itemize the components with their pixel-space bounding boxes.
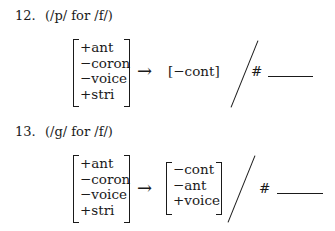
output-feature-matrix: −cont −ant +voice [173, 162, 220, 209]
rule-number: 12. [15, 8, 36, 23]
feature: −ant [173, 178, 220, 194]
rule-description: (/g/ for /f/) [45, 124, 113, 139]
feature: −voice [80, 71, 130, 87]
feature: +ant [80, 156, 130, 172]
rule-number: 13. [15, 124, 36, 139]
word-boundary-symbol: # [251, 64, 262, 80]
input-feature-matrix: +ant −coron −voice +stri [80, 40, 130, 102]
left-bracket [73, 39, 79, 107]
input-feature-matrix: +ant −coron −voice +stri [80, 156, 130, 218]
arrow-icon: → [137, 60, 152, 81]
feature: −cont [173, 162, 220, 178]
environment-slash [228, 155, 256, 222]
feature: −voice [80, 187, 130, 203]
output-feature: [−cont] [168, 64, 220, 80]
left-bracket [73, 155, 79, 223]
right-bracket [124, 39, 130, 107]
focus-blank [268, 76, 313, 77]
feature: +stri [80, 87, 130, 103]
left-bracket [166, 162, 172, 215]
word-boundary-symbol: # [259, 181, 270, 197]
focus-blank [277, 193, 323, 194]
feature: +ant [80, 40, 130, 56]
rule-description: (/p/ for /f/) [45, 8, 113, 23]
feature: −coron [80, 56, 130, 72]
right-bracket [124, 155, 130, 223]
feature: +stri [80, 203, 130, 219]
arrow-icon: → [137, 177, 152, 198]
right-bracket [216, 162, 222, 215]
feature: +voice [173, 193, 220, 209]
feature: −coron [80, 172, 130, 188]
